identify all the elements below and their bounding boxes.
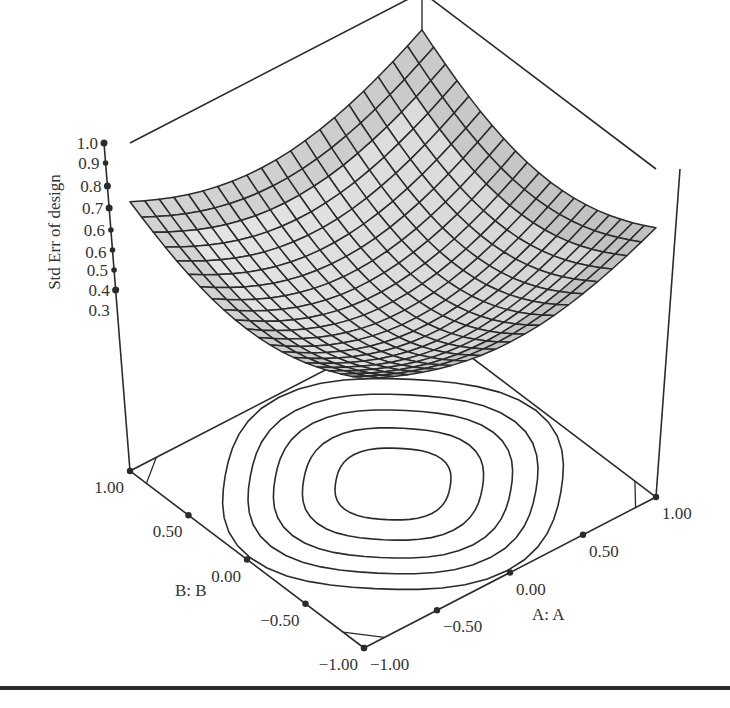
contour-line [248, 394, 538, 573]
response-surface-mesh [130, 30, 656, 379]
b-tick-mark [185, 512, 191, 518]
a-tick-label: −0.50 [443, 617, 482, 636]
a-tick-label: 0.00 [516, 580, 546, 599]
z-tick-mark [101, 140, 108, 147]
a-tick-label: 1.00 [662, 504, 692, 523]
z-tick-mark [111, 267, 117, 273]
z-tick-mark [108, 227, 114, 233]
z-tick-mark [112, 287, 119, 294]
z-tick-label: 0.8 [80, 177, 101, 196]
a-tick-label: 0.50 [589, 542, 619, 561]
z-tick-mark [103, 160, 109, 166]
z-tick-label: 0.4 [88, 281, 110, 300]
z-axis: 1.00.90.80.70.60.60.50.40.3 [77, 134, 119, 320]
surface-plot: 1.00.90.80.70.60.60.50.40.3 −1.00−0.500.… [0, 0, 730, 708]
z-tick-label: 0.7 [82, 199, 104, 218]
contour-line [302, 428, 483, 540]
b-tick-mark [302, 601, 308, 607]
contour-lines [223, 379, 564, 590]
a-tick-label: −1.00 [370, 655, 409, 674]
b-tick-mark [127, 468, 133, 474]
b-axis-title: B: B [175, 581, 207, 600]
z-tick-mark [110, 247, 116, 253]
a-tick-mark [653, 494, 659, 500]
box-right-vertical-edge [656, 169, 680, 497]
z-axis-title: Std Err of design [45, 174, 64, 290]
b-tick-label: −0.50 [260, 611, 299, 630]
b-axis: 1.000.500.00−0.50−1.00 [94, 468, 367, 674]
page-divider-rule [0, 686, 730, 690]
b-tick-mark [361, 645, 367, 651]
z-tick-mark [104, 183, 111, 190]
z-tick-mark [106, 205, 113, 212]
b-tick-mark [244, 556, 250, 562]
contour-line [335, 448, 451, 520]
a-tick-mark [434, 607, 440, 613]
z-tick-label: 0.3 [88, 301, 109, 320]
floor-corner-mark-right [635, 481, 636, 508]
z-tick-label: 1.0 [77, 134, 98, 153]
contour-line [273, 410, 512, 558]
z-tick-label: 0.6 [85, 243, 106, 262]
b-tick-label: 0.50 [153, 522, 183, 541]
z-tick-label: 0.5 [87, 261, 108, 280]
a-tick-mark [580, 532, 586, 538]
z-tick-label: 0.6 [84, 221, 105, 240]
b-tick-label: −1.00 [319, 655, 358, 674]
b-tick-label: 1.00 [94, 478, 124, 497]
b-tick-label: 0.00 [211, 567, 241, 586]
z-tick-label: 0.9 [78, 154, 99, 173]
a-axis-title: A: A [532, 605, 565, 624]
a-tick-mark [507, 569, 513, 575]
